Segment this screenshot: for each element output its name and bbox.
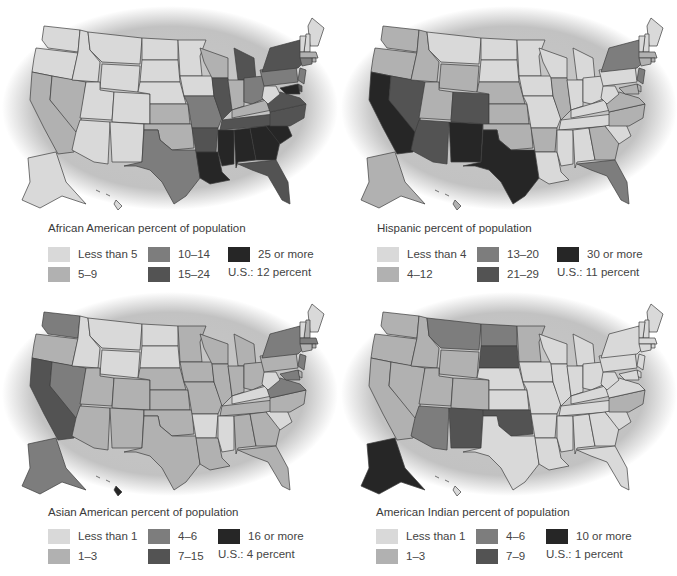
legend-title: African American percent of population <box>48 222 246 234</box>
legend-label: 1–3 <box>406 550 425 562</box>
us-average-note: U.S.: 1 percent <box>546 548 623 560</box>
state-co <box>112 92 150 124</box>
legend-swatch <box>218 529 240 544</box>
state-ri <box>651 344 655 348</box>
legend-swatch <box>148 247 170 262</box>
legend-swatch <box>377 267 399 282</box>
legend-swatch <box>477 267 499 282</box>
legend-label: Less than 1 <box>78 530 137 542</box>
legend-item-0: Less than 4 <box>377 246 466 262</box>
legend-item-2: 13–20 <box>477 246 539 262</box>
legend-item-3: 7–9 <box>476 548 525 564</box>
state-ma <box>639 52 657 58</box>
legend-item-4: 10 or more <box>546 528 632 544</box>
state-ms <box>557 416 573 452</box>
legend-swatch <box>148 267 170 282</box>
legend-label: 13–20 <box>507 248 539 260</box>
state-ks <box>489 390 529 410</box>
state-ks <box>489 104 529 124</box>
legend-label: 30 or more <box>587 248 643 260</box>
legend-swatch <box>48 267 70 282</box>
legend-label: 15–24 <box>178 268 210 280</box>
state-wy <box>439 350 479 378</box>
legend-item-2: 4–6 <box>476 528 525 544</box>
state-co <box>451 92 489 124</box>
legend-swatch <box>377 247 399 262</box>
state-ia <box>180 362 214 382</box>
legend-label: 4–6 <box>506 530 525 542</box>
state-co <box>112 378 150 410</box>
legend-item-4: 30 or more <box>557 246 643 262</box>
state-wy <box>100 64 140 92</box>
state-wa <box>42 26 80 52</box>
map-panel-african-american: African American percent of population L… <box>0 0 338 288</box>
state-sd <box>479 346 519 368</box>
legend-swatch <box>48 529 70 544</box>
state-sd <box>479 60 519 82</box>
state-ks <box>150 390 190 410</box>
legend-label: Less than 5 <box>78 248 137 260</box>
state-nd <box>142 324 178 346</box>
legend-item-0: Less than 5 <box>48 246 137 262</box>
us-average-note: U.S.: 4 percent <box>218 548 295 560</box>
state-ms <box>557 130 573 166</box>
legend: American Indian percent of population Le… <box>376 506 666 566</box>
legend-item-0: Less than 1 <box>48 528 137 544</box>
legend-item-4: 25 or more <box>228 246 314 262</box>
legend-label: 5–9 <box>78 268 97 280</box>
state-ma <box>639 338 657 344</box>
state-ia <box>519 362 553 382</box>
legend: African American percent of population L… <box>48 222 338 282</box>
state-ar <box>531 128 557 152</box>
legend-label: 7–15 <box>178 550 204 562</box>
legend-swatch <box>148 549 170 564</box>
state-ma <box>300 52 318 58</box>
legend-label: 21–29 <box>507 268 539 280</box>
state-nd <box>481 38 517 60</box>
legend-swatch <box>376 529 398 544</box>
map-panel-american-indian: American Indian percent of population Le… <box>339 286 677 574</box>
state-wy <box>100 350 140 378</box>
state-ma <box>300 338 318 344</box>
us-average-note: U.S.: 11 percent <box>557 266 639 278</box>
state-sd <box>140 346 180 368</box>
legend-item-1: 5–9 <box>48 266 97 282</box>
legend-label: 16 or more <box>248 530 304 542</box>
legend-label: 10 or more <box>576 530 632 542</box>
state-wa <box>381 26 419 52</box>
state-wa <box>381 312 419 338</box>
legend-label: 10–14 <box>178 248 210 260</box>
legend-item-0: Less than 1 <box>376 528 465 544</box>
state-ms <box>218 130 234 166</box>
legend-item-4: 16 or more <box>218 528 304 544</box>
us-average-note: U.S.: 12 percent <box>228 266 311 278</box>
state-ar <box>192 128 218 152</box>
state-ar <box>192 414 218 438</box>
state-ms <box>218 416 234 452</box>
map-panel-asian-american: Asian American percent of population Les… <box>0 286 338 574</box>
legend-title: American Indian percent of population <box>376 506 570 518</box>
state-nm <box>449 408 483 448</box>
legend-swatch <box>476 529 498 544</box>
legend-label: 4–12 <box>407 268 433 280</box>
legend-label: 1–3 <box>78 550 97 562</box>
state-nm <box>110 408 144 448</box>
legend-swatch <box>228 247 250 262</box>
legend-swatch <box>557 247 579 262</box>
us-choropleth-map <box>339 286 677 501</box>
state-me <box>308 304 324 332</box>
us-choropleth-map <box>0 286 338 501</box>
state-nd <box>142 38 178 60</box>
state-me <box>647 304 663 332</box>
legend-swatch <box>148 529 170 544</box>
legend-swatch <box>48 549 70 564</box>
legend-label: 25 or more <box>258 248 314 260</box>
legend-item-3: 7–15 <box>148 548 204 564</box>
legend-label: 4–6 <box>178 530 197 542</box>
legend-label: Less than 4 <box>407 248 466 260</box>
us-choropleth-map <box>339 0 677 215</box>
legend-item-3: 15–24 <box>148 266 210 282</box>
legend-label: 7–9 <box>506 550 525 562</box>
legend-item-1: 4–12 <box>377 266 433 282</box>
legend-item-2: 4–6 <box>148 528 197 544</box>
